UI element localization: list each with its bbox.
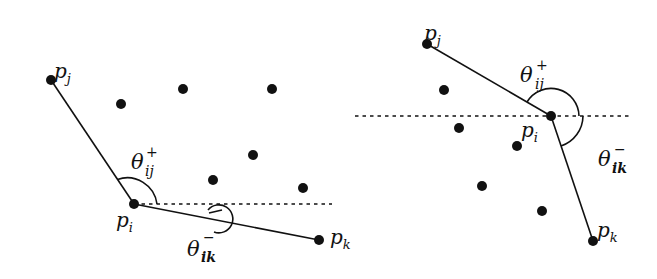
svg-text:−: − [203,229,215,245]
svg-text:ik: ik [201,249,216,265]
angle-diagram: pj pi pk θ + ij θ − ik pj pi [0,0,657,279]
svg-text:−: − [614,141,626,157]
svg-text:ij: ij [535,76,544,92]
point [512,141,522,151]
svg-text:ij: ij [145,163,154,179]
label-pj: pj [54,59,71,86]
label-theta-plus: θ + ij [131,144,158,179]
point [477,181,487,191]
label-pj: pj [424,21,441,48]
label-theta-minus: θ − ik [598,141,627,176]
edge-pi-pk [134,204,319,240]
svg-text:+: + [146,144,158,160]
point [178,84,188,94]
angle-arc-theta-minus [561,116,583,146]
point-pi [546,111,556,121]
point [116,99,126,109]
label-theta-plus: θ + ij [520,57,548,92]
svg-text:θ: θ [131,150,144,174]
point-pi [129,199,139,209]
label-theta-minus: θ − ik [187,229,216,265]
svg-text:+: + [536,57,548,73]
point [454,123,464,133]
label-pi: pi [521,118,538,145]
angle-arc-theta-plus [118,178,158,204]
label-pk: pk [330,225,351,252]
svg-text:ik: ik [612,160,627,176]
point-pk [314,235,324,245]
right-panel: pj pi pk θ + ij θ − ik [355,21,632,246]
point [208,175,218,185]
point [298,183,308,193]
edge-pi-pj [51,80,134,204]
point [537,206,547,216]
label-pk: pk [597,218,618,245]
point [439,85,449,95]
point [267,84,277,94]
angle-arrow-theta-minus [209,210,222,213]
edge-pi-pk [551,116,593,241]
label-pi: pi [116,208,133,235]
point [248,150,258,160]
left-panel: pj pi pk θ + ij θ − ik [46,59,351,265]
svg-text:θ: θ [520,63,533,87]
svg-text:θ: θ [598,147,611,171]
svg-text:θ: θ [187,237,200,261]
